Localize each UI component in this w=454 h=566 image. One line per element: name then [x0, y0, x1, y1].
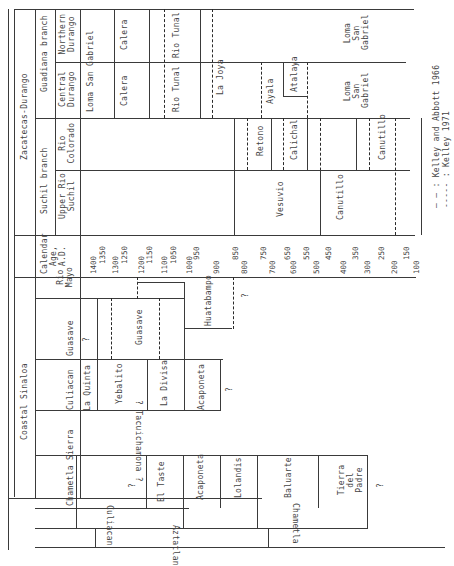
tick-300: 300	[364, 260, 372, 274]
tick-500: 500	[313, 260, 321, 274]
calichal-dashed	[283, 118, 284, 170]
atalaya-left	[283, 62, 284, 97]
col-central-durango: Central Durango	[58, 66, 76, 112]
phase-rio-tunal-north: Rio Tunal	[172, 12, 181, 58]
phase-el-taste: El Taste	[157, 461, 166, 502]
tick-1000: 1000	[186, 256, 194, 274]
tick-1300: 1300	[112, 256, 120, 274]
complex-aztatlan: Aztatlan	[171, 525, 180, 566]
lolandis-end	[257, 455, 258, 529]
tick-1200: 1200	[138, 256, 146, 274]
phase-baluarte: Baluarte	[284, 457, 293, 498]
frame-left	[14, 9, 15, 497]
phase-calera-north: Calera	[120, 19, 129, 50]
aztatlan-left	[95, 528, 96, 548]
guasave-dashed-2	[159, 298, 160, 359]
phase-loma-san-gabriel-north: Loma San Gabriel	[343, 16, 370, 50]
tick-100: 100	[413, 260, 421, 274]
baluarte-end	[318, 455, 319, 508]
acaponeta-chametla-end	[220, 455, 221, 508]
tick-1150: 1150	[146, 246, 154, 264]
north-end	[114, 62, 406, 63]
tick-950: 950	[193, 246, 201, 260]
suchil-end	[421, 118, 422, 235]
vesuvio-end	[320, 170, 321, 235]
yebalito-end	[147, 359, 148, 411]
phase-acaponeta-culiacan: Acaponeta	[197, 364, 206, 410]
frame-left-lower	[8, 9, 9, 550]
retono-dashed	[247, 118, 248, 170]
chametla-question: ?	[128, 483, 137, 488]
axis-top	[35, 235, 415, 236]
tick-150: 150	[403, 246, 411, 260]
region-zacatecas-durango: Zacatecas-Durango	[20, 73, 29, 160]
phase-loma-san-gabriel-top: Loma San Gabriel	[86, 30, 95, 112]
complex-row-bottom	[35, 528, 368, 529]
branch-guadiana: Guadiana branch	[40, 15, 49, 92]
tierra-question: ?	[376, 483, 385, 488]
tick-1350: 1350	[99, 246, 107, 264]
tick-250: 250	[378, 246, 386, 260]
el-taste-end	[183, 455, 184, 529]
tick-1400: 1400	[90, 256, 98, 274]
la-divisa-end	[184, 359, 185, 411]
complex-culiacan: Culiacan	[105, 505, 114, 546]
phase-lolandis: Lolandis	[234, 457, 243, 498]
aztatlan-bottom	[35, 547, 445, 548]
phase-canutillo-suchil: Canutillo	[336, 174, 345, 220]
branch-strip-divider	[55, 9, 56, 235]
tick-1050: 1050	[170, 246, 178, 264]
col-culiacan: Culiacan	[66, 369, 75, 410]
huatabampo-top	[137, 282, 185, 283]
column-strip-divider	[80, 9, 81, 498]
atalaya-bottom	[283, 96, 308, 97]
huatabampo-question: ?	[241, 293, 250, 298]
rio-tunal-end	[200, 9, 201, 118]
guasave-q-end	[97, 298, 98, 410]
acaponeta-culiacan-end	[220, 359, 221, 411]
tick-850: 850	[232, 246, 240, 260]
tierra-end	[367, 455, 368, 529]
tick-200: 200	[391, 260, 399, 274]
chametla-top	[183, 455, 368, 456]
culiacan-bottom	[35, 410, 221, 411]
tick-400: 400	[340, 260, 348, 274]
rio-tunal-dashed	[164, 9, 165, 118]
col-guasave: Guasave	[66, 320, 75, 356]
huatabampo-left	[184, 282, 185, 359]
rio-mayo-dashed	[137, 277, 138, 299]
legend-solid: — — : Kelley and Abbott 1966	[432, 65, 441, 208]
tick-550: 550	[303, 246, 311, 260]
tick-450: 450	[325, 246, 333, 260]
aztatlan-right	[268, 528, 269, 548]
ayala-dashed	[261, 62, 262, 118]
col-rio-mayo: Rio Mayo	[56, 262, 74, 292]
phase-tacuichamona: ? Tacuichamona ?	[134, 400, 143, 482]
calichal-end	[307, 118, 308, 170]
canutillo-colorado-start	[356, 118, 357, 170]
el-taste-start	[146, 455, 147, 508]
phase-guasave: Guasave	[135, 309, 144, 345]
complex-chametla: Chametla	[291, 503, 300, 544]
phase-calichal: Calichal	[290, 119, 299, 160]
phase-vesuvio: Vesuvio	[276, 181, 285, 217]
tick-1100: 1100	[161, 256, 169, 274]
region-strip-divider	[35, 9, 36, 498]
canutillo-end-dashed	[395, 118, 396, 235]
col-div-colorado-suchil	[55, 170, 410, 171]
phase-loma-san-gabriel-central: Loma San Gabriel	[343, 74, 370, 108]
col-rio-colorado: Rio Colorado	[58, 122, 76, 164]
culiacan-complex-left	[76, 508, 77, 528]
tick-900: 900	[213, 260, 221, 274]
region-coastal-sinaloa: Coastal Sinaloa	[20, 363, 29, 440]
tick-650: 650	[284, 246, 292, 260]
col-upper-rio-suchil: Upper Rio Suchil	[58, 172, 76, 220]
phase-canutillo-colorado: Canutillo	[378, 114, 387, 160]
tick-700: 700	[269, 260, 277, 274]
col-chametla: Chametla	[66, 465, 75, 506]
calera-start	[114, 9, 115, 118]
tick-750: 750	[260, 246, 268, 260]
axis-bottom	[14, 277, 416, 278]
tick-350: 350	[352, 246, 360, 260]
phase-huatabampo: Huatabampo	[204, 275, 213, 326]
